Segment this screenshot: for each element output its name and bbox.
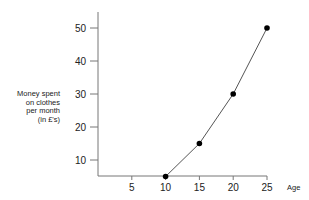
y-tick-label: 20 bbox=[75, 122, 87, 133]
y-tick-label: 30 bbox=[75, 89, 87, 100]
y-axis-title-line: (in £'s) bbox=[38, 115, 61, 124]
data-point bbox=[264, 25, 270, 31]
x-tick-label: 15 bbox=[194, 182, 206, 193]
data-point bbox=[230, 91, 236, 97]
x-tick-label: 10 bbox=[160, 182, 172, 193]
data-point bbox=[197, 141, 203, 147]
x-tick-label: 5 bbox=[129, 182, 135, 193]
x-tick-label: 20 bbox=[228, 182, 240, 193]
y-tick-label: 10 bbox=[75, 155, 87, 166]
x-axis-title: Age bbox=[287, 183, 300, 192]
series-line bbox=[166, 28, 267, 177]
x-ticks: 510152025 bbox=[129, 176, 273, 193]
y-tick-label: 50 bbox=[75, 23, 87, 34]
series bbox=[163, 25, 270, 179]
data-point bbox=[163, 174, 169, 180]
line-chart: 1020304050 510152025 Age Money spenton c… bbox=[0, 0, 309, 200]
y-axis-title: Money spenton clothesper month(in £'s) bbox=[17, 89, 61, 124]
y-tick-label: 40 bbox=[75, 56, 87, 67]
y-ticks: 1020304050 bbox=[75, 23, 98, 166]
axes bbox=[98, 12, 267, 176]
x-tick-label: 25 bbox=[261, 182, 273, 193]
